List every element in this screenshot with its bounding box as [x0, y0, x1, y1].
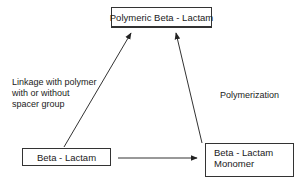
polymerization-arrow: [176, 33, 202, 143]
beta-lactam-node: Beta - Lactam: [22, 148, 111, 166]
monomer-label-line-1: Beta - Lactam: [214, 147, 293, 158]
polymeric-beta-lactam-node: Polymeric Beta - Lactam: [111, 7, 212, 28]
linkage-label-line-3: spacer group: [12, 99, 108, 110]
beta-lactam-monomer-node: Beta - Lactam Monomer: [205, 143, 294, 177]
linkage-label-line-1: Linkage with polymer: [12, 77, 108, 88]
linkage-label: Linkage with polymer with or without spa…: [12, 77, 108, 110]
linkage-label-line-2: with or without: [12, 88, 108, 99]
polymeric-beta-lactam-label: Polymeric Beta - Lactam: [110, 12, 213, 23]
beta-lactam-label: Beta - Lactam: [37, 152, 96, 163]
polymerization-label: Polymerization: [220, 90, 279, 101]
monomer-label-line-2: Monomer: [214, 158, 293, 169]
